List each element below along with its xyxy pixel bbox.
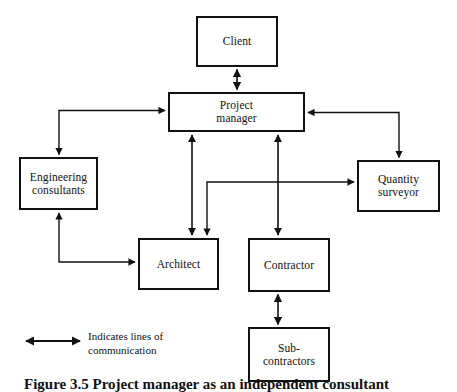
node-architect-label: Architect (155, 258, 203, 271)
node-contractor[interactable]: Contractor (248, 238, 330, 292)
node-client-label: Client (221, 35, 254, 48)
node-quantity-surveyor[interactable]: Quantitysurveyor (357, 160, 440, 212)
connector-engineering-consultants-project-manager (59, 111, 165, 155)
node-project-manager-label: Projectmanager (214, 99, 258, 125)
connector-architect-quantity-surveyor (207, 182, 354, 235)
legend-line-2: communication (88, 344, 218, 358)
node-engineering-consultants[interactable]: Engineeringconsultants (19, 157, 98, 210)
diagram-page: Client Projectmanager Engineeringconsult… (0, 0, 457, 392)
legend-line-1: Indicates lines of (88, 330, 218, 344)
node-project-manager[interactable]: Projectmanager (168, 92, 305, 132)
node-architect[interactable]: Architect (138, 238, 219, 290)
node-engineering-consultants-label: Engineeringconsultants (28, 171, 89, 197)
node-quantity-surveyor-label: Quantitysurveyor (376, 173, 421, 199)
node-subcontractors[interactable]: Sub-contractors (248, 327, 330, 382)
node-subcontractors-label: Sub-contractors (261, 342, 317, 368)
node-client[interactable]: Client (196, 16, 278, 67)
connector-engineering-consultants-architect (59, 213, 135, 262)
legend: Indicates lines of communication (88, 330, 218, 358)
figure-caption: Figure 3.5 Project manager as an indepen… (24, 376, 444, 392)
node-contractor-label: Contractor (262, 259, 316, 272)
connector-project-manager-quantity-surveyor (308, 113, 399, 158)
